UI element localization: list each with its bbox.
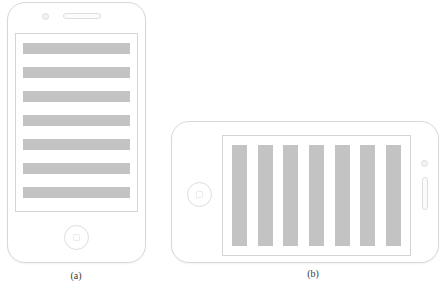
figure-canvas: (a) (b) xyxy=(0,0,447,293)
content-line xyxy=(23,43,130,54)
content-column xyxy=(386,145,401,246)
content-lines-horizontal xyxy=(16,34,137,211)
home-button-icon[interactable] xyxy=(187,182,212,207)
phone-screen-landscape[interactable] xyxy=(222,135,411,256)
home-button-icon[interactable] xyxy=(64,225,89,250)
content-line xyxy=(23,163,130,174)
content-line xyxy=(23,91,130,102)
content-column xyxy=(360,145,375,246)
home-square-glyph-icon xyxy=(73,234,80,241)
earpiece-speaker-icon xyxy=(422,177,428,210)
content-column xyxy=(335,145,350,246)
home-square-glyph-icon xyxy=(196,191,203,198)
content-column xyxy=(309,145,324,246)
content-columns-vertical xyxy=(223,136,410,255)
content-line xyxy=(23,115,130,126)
earpiece-speaker-icon xyxy=(63,13,101,19)
phone-device-landscape[interactable] xyxy=(171,121,439,263)
content-line xyxy=(23,67,130,78)
figure-caption-b: (b) xyxy=(287,268,339,279)
content-line xyxy=(23,187,130,198)
camera-dot-icon xyxy=(421,160,428,167)
figure-caption-a: (a) xyxy=(50,270,102,281)
phone-screen-portrait[interactable] xyxy=(15,33,138,212)
phone-device-portrait[interactable] xyxy=(7,2,146,263)
content-column xyxy=(232,145,247,246)
content-line xyxy=(23,139,130,150)
content-column xyxy=(283,145,298,246)
camera-dot-icon xyxy=(42,13,49,20)
content-column xyxy=(258,145,273,246)
